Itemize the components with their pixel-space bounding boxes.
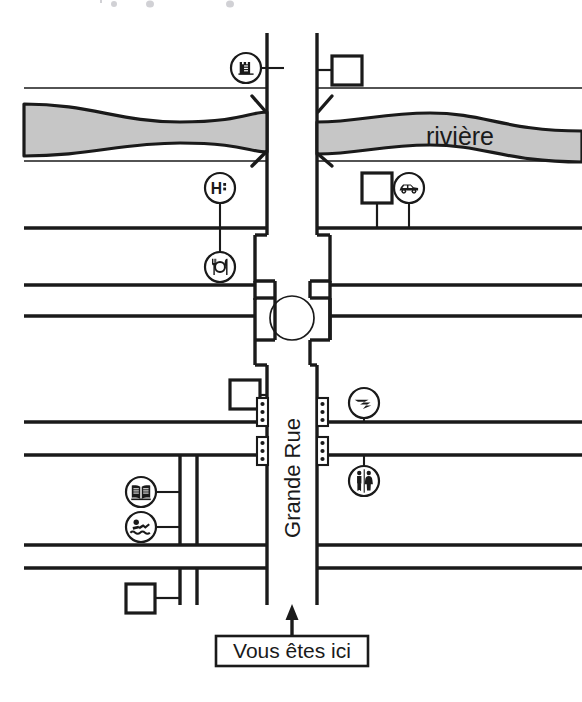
traffic-light-south-east	[317, 437, 328, 465]
map-canvas: H	[0, 0, 582, 702]
you-are-here-label: Vous êtes ici	[233, 639, 351, 662]
poi-restaurant[interactable]	[205, 228, 235, 282]
river: rivière	[24, 104, 582, 162]
river-label: rivière	[426, 122, 494, 150]
building-mid-right	[362, 173, 392, 228]
traffic-light-south-west	[257, 437, 268, 465]
you-are-here-arrow-head	[286, 604, 299, 620]
building-bottom-left	[126, 584, 180, 613]
poi-castle[interactable]	[231, 53, 284, 83]
grande-rue-label: Grande Rue	[280, 418, 305, 538]
poi-post-office[interactable]	[349, 388, 379, 422]
poi-hospital[interactable]	[205, 173, 235, 228]
city-map: H	[0, 0, 582, 702]
poi-toilets[interactable]	[349, 455, 379, 496]
traffic-light-north-west	[257, 398, 268, 426]
poi-pool[interactable]	[126, 512, 180, 542]
building-top-right	[318, 56, 362, 85]
you-are-here-marker: Vous êtes ici	[216, 604, 368, 666]
traffic-light-north-east	[317, 398, 328, 426]
poi-library[interactable]	[126, 477, 180, 507]
page-artifact-top	[100, 0, 234, 8]
poi-garage[interactable]	[394, 173, 424, 228]
river-west-band	[24, 104, 267, 156]
